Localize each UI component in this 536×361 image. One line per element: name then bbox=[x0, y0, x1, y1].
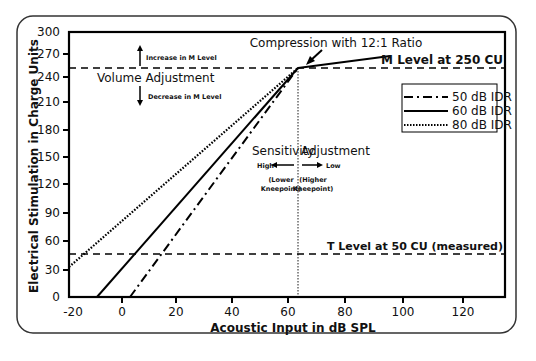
x-tick-label: 0 bbox=[118, 305, 126, 319]
m-level-label: M Level at 250 CU bbox=[381, 53, 503, 67]
lower-kneepoint-label: (Lower bbox=[268, 176, 294, 184]
high-label: High bbox=[257, 162, 274, 170]
x-tick-label: 60 bbox=[280, 305, 295, 319]
x-axis-label: Acoustic Input in dB SPL bbox=[210, 321, 376, 335]
decrease-label: Decrease in M Level bbox=[148, 93, 221, 101]
y-tick-label: 300 bbox=[37, 25, 60, 39]
legend-item-50db: 50 dB IDR bbox=[452, 90, 512, 104]
legend: 50 dB IDR 60 dB IDR 80 dB IDR bbox=[402, 84, 512, 132]
y-tick-label: 30 bbox=[45, 263, 60, 277]
legend-item-60db: 60 dB IDR bbox=[452, 104, 512, 118]
chart: 300 270 240 210 180 150 120 90 60 30 0 -… bbox=[0, 0, 536, 361]
higher-kneepoint-label: (Higher bbox=[299, 176, 327, 184]
x-tick-label: 100 bbox=[392, 305, 415, 319]
low-label: Low bbox=[326, 162, 341, 170]
x-tick-label: -20 bbox=[63, 305, 83, 319]
volume-label: Volume Adjustment bbox=[97, 71, 215, 85]
legend-item-80db: 80 dB IDR bbox=[452, 118, 512, 132]
y-tick-label: 90 bbox=[45, 206, 60, 220]
y-axis-label: Electrical Stimulation in Charge Units bbox=[27, 39, 41, 293]
y-tick-label: 0 bbox=[52, 290, 60, 304]
t-level-label: T Level at 50 CU (measured) bbox=[327, 240, 503, 253]
compression-label: Compression with 12:1 Ratio bbox=[250, 36, 423, 50]
x-tick-label: 80 bbox=[337, 305, 352, 319]
x-tick-label: 40 bbox=[224, 305, 239, 319]
y-tick-label: 60 bbox=[45, 234, 60, 248]
increase-label: Increase in M Level bbox=[146, 54, 217, 62]
sensitivity-label-2: Adjustment bbox=[301, 144, 370, 158]
higher-kneepoint-label-2: Kneepoint) bbox=[293, 185, 334, 193]
x-tick-label: 120 bbox=[452, 305, 475, 319]
x-tick-label: 20 bbox=[168, 305, 183, 319]
